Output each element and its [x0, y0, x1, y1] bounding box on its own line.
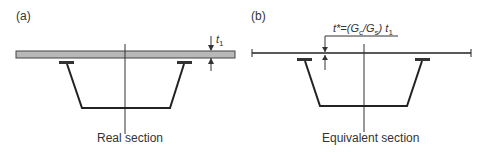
panel-b-drawing: [252, 36, 471, 132]
right-flange: [415, 58, 430, 61]
equivalent-thickness-formula: t*=(Gc/Gs) t1: [333, 22, 393, 37]
panel-a-drawing: [16, 36, 235, 134]
panel-a-caption: Real section: [97, 131, 163, 145]
left-flange: [59, 61, 74, 64]
arrow-up-icon: [208, 58, 214, 64]
thickness-subscript: 1: [219, 39, 223, 48]
arrow-down-icon: [322, 47, 328, 52]
arrow-down-icon: [208, 45, 214, 51]
arrow-up-icon: [322, 55, 328, 60]
panel-a-tag: (a): [16, 9, 31, 23]
panel-b-tag: (b): [251, 9, 266, 23]
formula-part: /G: [363, 22, 375, 34]
diagram-canvas: [0, 0, 483, 152]
right-flange: [177, 61, 192, 64]
formula-part: t*=(G: [333, 22, 359, 34]
formula-leader-line: [325, 36, 398, 44]
thickness-label: t1: [216, 33, 224, 48]
panel-b-caption: Equivalent section: [322, 131, 419, 145]
formula-part: ) t: [379, 22, 389, 34]
left-flange: [297, 58, 312, 61]
formula-subscript: 1: [388, 28, 392, 37]
